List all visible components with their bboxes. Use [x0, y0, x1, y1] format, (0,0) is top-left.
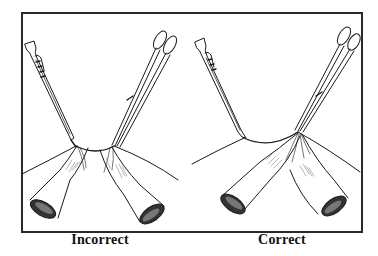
ring-forceps-icon [112, 29, 179, 147]
tissue-icon [192, 132, 360, 220]
tissue-shading [66, 158, 127, 178]
ring-forceps-icon [295, 25, 363, 132]
tissue-shading [266, 154, 314, 176]
panel-label-correct: Correct [250, 232, 314, 248]
panel-label-incorrect: Incorrect [62, 232, 138, 248]
straight-clamp-icon [195, 38, 246, 138]
incorrect-panel-drawing [22, 29, 179, 228]
surgical-illustration [0, 0, 378, 256]
correct-panel-drawing [192, 25, 363, 220]
tissue-icon [22, 146, 178, 228]
straight-clamp-icon [25, 41, 76, 147]
